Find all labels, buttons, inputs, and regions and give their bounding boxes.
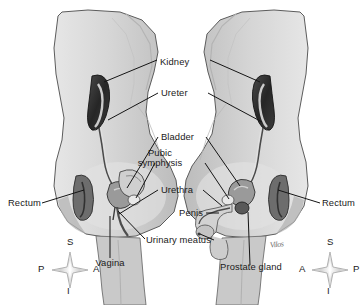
label-prostate-gland: Prostate gland xyxy=(210,262,292,273)
compass-right-inferior: I xyxy=(327,285,330,296)
female-pubic-symphysis-organ xyxy=(128,195,140,205)
anatomy-figure: Kidney Ureter Bladder Pubic symphysis Ur… xyxy=(0,0,362,305)
compass-left-anterior: A xyxy=(93,263,99,274)
artist-signature: Vilos xyxy=(270,239,284,250)
compass-left-inferior: I xyxy=(67,285,70,296)
compass-right-rose xyxy=(312,252,348,288)
label-rectum-right: Rectum xyxy=(322,198,355,209)
compass-right-superior: S xyxy=(327,236,333,247)
label-ureter: Ureter xyxy=(161,88,188,99)
label-kidney: Kidney xyxy=(160,57,189,68)
compass-right-posterior: P xyxy=(353,263,359,274)
compass-left-posterior: P xyxy=(38,263,44,274)
compass-left-superior: S xyxy=(67,236,73,247)
label-urethra: Urethra xyxy=(161,185,193,196)
label-rectum-left: Rectum xyxy=(8,198,41,209)
label-urinary-meatus: Urinary meatus xyxy=(146,235,211,246)
female-rectum-organ xyxy=(73,175,94,220)
label-penis: Penis xyxy=(163,208,203,219)
label-bladder: Bladder xyxy=(161,132,194,143)
compass-right-anterior: A xyxy=(299,263,305,274)
male-prostate-organ xyxy=(235,202,249,214)
male-rectum-organ xyxy=(269,175,290,220)
compass-left-rose xyxy=(52,252,88,288)
label-pubic-symphysis-line2: symphysis xyxy=(127,158,193,169)
